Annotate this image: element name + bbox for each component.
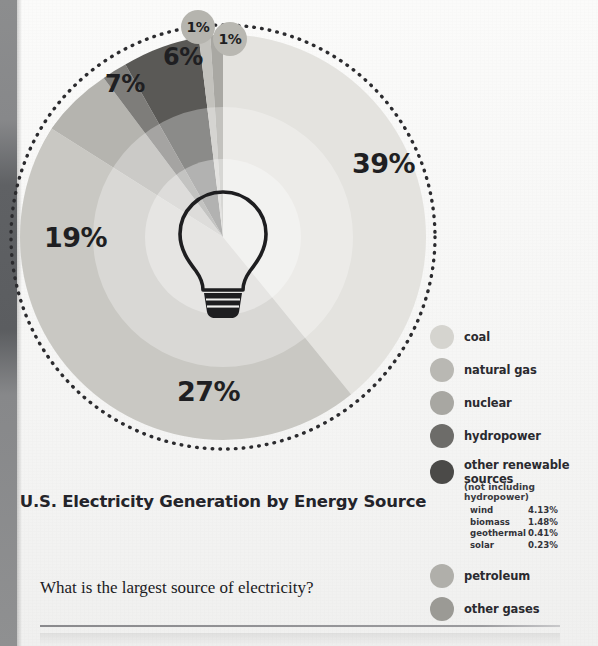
breakdown-name-biomass: biomass [470,517,528,529]
slice-label-hydropower: 7% [105,72,145,96]
legend-swatch-coal [430,325,454,349]
breakdown-row: wind 4.13% [470,505,598,517]
breakdown-name-wind: wind [470,505,528,517]
legend-label-petroleum: petroleum [464,569,530,583]
bottom-divider [40,625,560,627]
renewables-breakdown-table: wind 4.13% biomass 1.48% geothermal 0.41… [470,505,598,551]
bottom-divider-shadow [40,633,560,646]
breakdown-row: solar 0.23% [470,540,598,552]
slice-label-natural-gas: 27% [177,378,240,405]
legend-item-hydropower[interactable]: hydropower [430,419,598,452]
breakdown-row: biomass 1.48% [470,517,598,529]
slice-badge-petroleum: 1% [181,10,215,44]
legend-swatch-other-gases [430,597,454,621]
legend-label-natural-gas: natural gas [464,363,537,377]
legend-label-coal: coal [464,330,490,344]
chart-title: U.S. Electricity Generation by Energy So… [8,492,438,511]
legend-swatch-nuclear [430,391,454,415]
slice-badge-other-gases: 1% [213,22,247,56]
legend-swatch-other-renewables [430,460,454,484]
legend-swatch-petroleum [430,564,454,588]
breakdown-value-geothermal: 0.41% [528,528,574,540]
legend-item-other-renewables[interactable]: other renewable sources [430,458,598,486]
breakdown-name-solar: solar [470,540,528,552]
legend-label-hydropower: hydropower [464,429,541,443]
legend-swatch-natural-gas [430,358,454,382]
pie-chart-graphic: 39% 27% 19% 7% 6% 1% 1% [8,2,438,472]
slice-label-nuclear: 19% [44,224,107,251]
legend-label-other-renewables: other renewable sources [464,458,598,486]
legend-item-coal[interactable]: coal [430,320,598,353]
breakdown-value-biomass: 1.48% [528,517,574,529]
legend-item-natural-gas[interactable]: natural gas [430,353,598,386]
breakdown-value-solar: 0.23% [528,540,574,552]
slice-label-coal: 39% [352,150,415,177]
legend-label-other-gases: other gases [464,602,539,616]
legend-swatch-hydropower [430,424,454,448]
pie-chart: 39% 27% 19% 7% 6% 1% 1% [8,2,438,472]
breakdown-value-wind: 4.13% [528,505,574,517]
question-text: What is the largest source of electricit… [40,578,313,598]
breakdown-name-geothermal: geothermal [470,528,528,540]
chart-legend: coal natural gas nuclear hydropower othe… [430,320,598,625]
breakdown-row: geothermal 0.41% [470,528,598,540]
legend-item-other-gases[interactable]: other gases [430,592,598,625]
legend-item-nuclear[interactable]: nuclear [430,386,598,419]
legend-label-nuclear: nuclear [464,396,512,410]
slice-label-other-renewables: 6% [163,45,203,69]
legend-item-petroleum[interactable]: petroleum [430,559,598,592]
